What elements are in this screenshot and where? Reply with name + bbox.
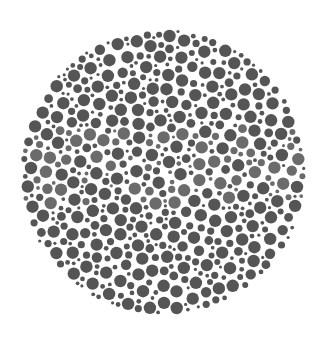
color-vision-test-plate xyxy=(0,0,326,339)
plate-dots xyxy=(21,30,305,315)
